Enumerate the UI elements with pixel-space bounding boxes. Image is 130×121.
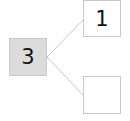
connector-to-bottom-part (47, 57, 83, 95)
connector-to-top-part (47, 20, 83, 57)
part-box-bottom-empty[interactable] (83, 76, 121, 114)
whole-box: 3 (9, 38, 47, 76)
part-box-top: 1 (83, 0, 121, 37)
